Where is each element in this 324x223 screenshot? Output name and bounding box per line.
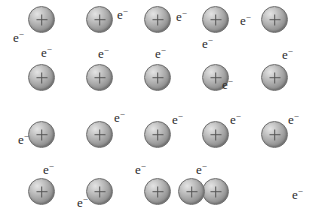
electron-charge-sign: − <box>228 76 233 86</box>
electron-charge-sign: − <box>47 44 52 54</box>
positive-ion-r3-c5 <box>261 121 288 148</box>
electron-label-15: e− <box>288 113 299 126</box>
positive-ion-r1-c4 <box>202 6 229 33</box>
electron-charge-sign: − <box>104 45 109 55</box>
electron-charge-sign: − <box>246 12 251 22</box>
electron-label-11: e− <box>18 133 29 146</box>
plus-sign-vertical <box>157 72 159 83</box>
positive-ion-r2-c3 <box>144 64 171 91</box>
electron-label-2: e− <box>117 8 128 21</box>
positive-ion-r3-c3 <box>144 121 171 148</box>
electron-label-13: e− <box>172 113 183 126</box>
electron-charge-sign: − <box>161 45 166 55</box>
electron-charge-sign: − <box>182 8 187 18</box>
plus-sign-vertical <box>99 14 101 25</box>
plus-sign-vertical <box>157 129 159 140</box>
electron-charge-sign: − <box>202 161 207 171</box>
positive-ion-r4-c5 <box>178 178 205 205</box>
plus-sign-vertical <box>215 129 217 140</box>
positive-ion-r1-c1 <box>28 6 55 33</box>
electron-label-3: e− <box>176 10 187 23</box>
positive-ion-r3-c1 <box>28 121 55 148</box>
plus-sign-vertical <box>41 72 43 83</box>
electron-label-5: e− <box>41 46 52 59</box>
electron-label-18: e− <box>196 163 207 176</box>
plus-sign-vertical <box>99 186 101 197</box>
electron-charge-sign: − <box>141 161 146 171</box>
plus-sign-vertical <box>99 72 101 83</box>
positive-ion-r1-c5 <box>261 6 288 33</box>
positive-ion-r4-c2 <box>86 178 113 205</box>
electron-charge-sign: − <box>208 35 213 45</box>
electron-label-7: e− <box>98 47 109 60</box>
plus-sign-vertical <box>274 129 276 140</box>
electron-charge-sign: − <box>19 29 24 39</box>
electron-charge-sign: − <box>236 111 241 121</box>
electron-label-9: e− <box>282 48 293 61</box>
electron-label-4: e− <box>240 14 251 27</box>
electron-charge-sign: − <box>49 161 54 171</box>
positive-ion-r3-c2 <box>86 121 113 148</box>
electron-label-14: e− <box>230 113 241 126</box>
electron-charge-sign: − <box>294 111 299 121</box>
electron-label-1: e− <box>13 31 24 44</box>
electron-label-20: e− <box>292 188 303 201</box>
positive-ion-r3-c4 <box>202 121 229 148</box>
positive-ion-r2-c1 <box>28 64 55 91</box>
plus-sign-vertical <box>157 186 159 197</box>
plus-sign-vertical <box>99 129 101 140</box>
electron-charge-sign: − <box>83 194 88 204</box>
electron-charge-sign: − <box>24 131 29 141</box>
electron-charge-sign: − <box>120 109 125 119</box>
positive-ion-r4-c1 <box>28 178 55 205</box>
electron-label-19: e− <box>77 196 88 209</box>
plus-sign-vertical <box>41 14 43 25</box>
electron-charge-sign: − <box>178 111 183 121</box>
plus-sign-vertical <box>41 186 43 197</box>
positive-ion-r1-c3 <box>144 6 171 33</box>
plus-sign-vertical <box>157 14 159 25</box>
plus-sign-vertical <box>215 72 217 83</box>
electron-label-10: e− <box>222 78 233 91</box>
plus-sign-vertical <box>191 186 193 197</box>
metallic-bonding-diagram: e−e−e−e−e−e−e−e−e−e−e−e−e−e−e−e−e−e−e−e− <box>0 0 324 223</box>
electron-label-8: e− <box>155 47 166 60</box>
positive-ion-r4-c4 <box>202 178 229 205</box>
positive-ion-r2-c5 <box>261 64 288 91</box>
electron-charge-sign: − <box>298 186 303 196</box>
positive-ion-r1-c2 <box>86 6 113 33</box>
electron-label-12: e− <box>114 111 125 124</box>
electron-charge-sign: − <box>123 6 128 16</box>
positive-ion-r2-c2 <box>86 64 113 91</box>
electron-charge-sign: − <box>288 46 293 56</box>
plus-sign-vertical <box>41 129 43 140</box>
plus-sign-vertical <box>274 72 276 83</box>
plus-sign-vertical <box>274 14 276 25</box>
plus-sign-vertical <box>215 186 217 197</box>
electron-label-16: e− <box>43 163 54 176</box>
positive-ion-r4-c3 <box>144 178 171 205</box>
electron-label-17: e− <box>135 163 146 176</box>
plus-sign-vertical <box>215 14 217 25</box>
electron-label-6: e− <box>202 37 213 50</box>
